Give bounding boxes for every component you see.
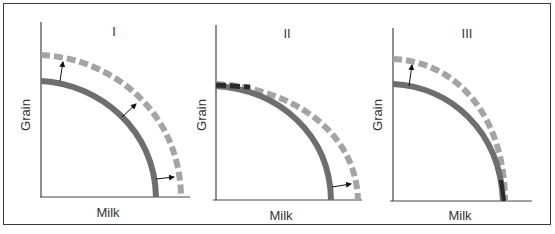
new-frontier-dashed	[216, 84, 358, 200]
ppf-diagram: I Grain Milk II Grain Milk III Grain Mil…	[0, 0, 555, 234]
panel-3: III Grain Milk	[370, 26, 532, 223]
panel-2: II Grain Milk	[194, 25, 362, 223]
shift-arrow-up-icon	[409, 65, 412, 86]
panel-3-label: III	[462, 26, 473, 41]
shift-arrow-right-icon	[332, 184, 351, 187]
panel-1-label: I	[112, 24, 116, 39]
x-axis-label: Milk	[448, 208, 472, 223]
y-axis-label: Grain	[194, 99, 209, 131]
new-frontier-dashed	[41, 55, 181, 197]
panel-2-label: II	[283, 26, 290, 41]
original-frontier-solid	[393, 84, 503, 201]
y-axis-label: Grain	[370, 99, 385, 131]
y-axis-label: Grain	[18, 99, 33, 131]
x-axis-label: Milk	[269, 208, 293, 223]
shared-intercept-overlap	[216, 85, 250, 87]
x-axis-label: Milk	[96, 205, 120, 220]
panel-1: I Grain Milk	[18, 22, 190, 220]
shift-arrow-up-icon	[60, 62, 63, 81]
original-frontier-solid	[216, 86, 331, 200]
shift-arrow-right-icon	[156, 177, 174, 179]
shift-arrow-diagonal-icon	[122, 104, 136, 117]
